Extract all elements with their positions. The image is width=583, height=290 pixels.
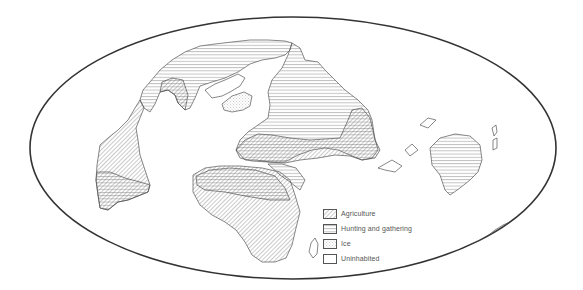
legend-label: Ice (341, 240, 351, 247)
uninhabited-swatch-icon (323, 254, 337, 264)
legend-label: Hunting and gathering (341, 225, 412, 232)
legend-item-ice: Ice (323, 236, 412, 251)
agriculture-swatch-icon (323, 209, 337, 219)
hunting-swatch-icon (323, 224, 337, 234)
legend: Agriculture Hunting and gathering Ice Un… (323, 206, 412, 266)
legend-label: Agriculture (341, 210, 376, 217)
legend-item-uninhabited: Uninhabited (323, 251, 412, 266)
legend-item-agriculture: Agriculture (323, 206, 412, 221)
ice-swatch-icon (323, 239, 337, 249)
island-new-zealand-south (493, 138, 497, 150)
legend-item-hunting: Hunting and gathering (323, 221, 412, 236)
world-map (0, 0, 583, 290)
legend-label: Uninhabited (341, 255, 379, 262)
